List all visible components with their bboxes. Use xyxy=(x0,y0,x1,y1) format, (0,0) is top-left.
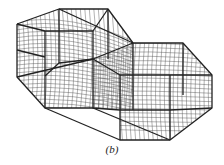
figure-caption: (b) xyxy=(0,143,224,155)
wireframe-figure xyxy=(0,0,224,165)
